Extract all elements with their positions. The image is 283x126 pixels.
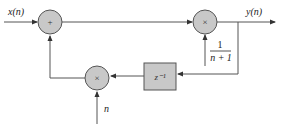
gain-numerator: 1 [218,39,223,50]
gain-denominator: n + 1 [210,52,232,63]
return-wire [50,36,85,78]
input-label: x(n) [7,6,25,18]
top-multiplier-symbol: × [202,17,207,27]
adder-symbol: + [47,17,52,27]
n-input-label: n [104,103,109,114]
output-label: y(n) [245,6,263,18]
delay-label: z⁻¹ [153,72,166,82]
block-diagram: x(n) + × y(n) 1 n + 1 z⁻¹ × n [0,0,283,126]
bottom-multiplier-symbol: × [94,73,99,83]
